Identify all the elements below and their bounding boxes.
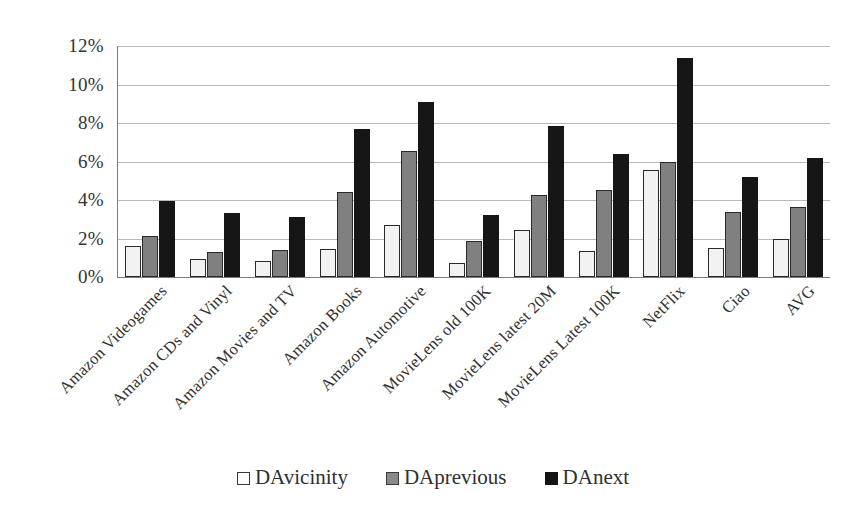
legend-label: DAnext xyxy=(563,466,630,488)
legend-item[interactable]: DAnext xyxy=(545,466,630,488)
legend-label: DAvicinity xyxy=(255,466,348,488)
y-axis-tick-label: 8% xyxy=(46,113,104,132)
bar-vicinity xyxy=(255,261,271,277)
y-axis-tick-label: 0% xyxy=(46,267,104,286)
legend-swatch-vicinity xyxy=(237,472,250,485)
bar-next xyxy=(289,217,305,277)
y-axis-tick-label: 12% xyxy=(46,36,104,55)
bar-previous xyxy=(660,162,676,277)
bar-groups xyxy=(118,46,830,277)
bar-next xyxy=(159,201,175,277)
bar-next xyxy=(224,213,240,277)
bar-group xyxy=(118,46,183,277)
bar-next xyxy=(807,158,823,277)
bar-vicinity xyxy=(514,230,530,277)
x-axis-category-label: MovieLens latest 20M xyxy=(438,282,558,402)
bar-previous xyxy=(531,195,547,277)
y-axis-tick-label: 10% xyxy=(46,75,104,94)
x-axis-category-label: Amazon CDs and Vinyl xyxy=(109,282,235,408)
legend-swatch-previous xyxy=(386,472,399,485)
bar-previous xyxy=(725,212,741,277)
x-axis-category-label: MovieLens Latest 100K xyxy=(495,282,623,410)
x-axis-category-label: Amazon Videogames xyxy=(56,282,170,396)
bar-group xyxy=(247,46,312,277)
legend-item[interactable]: DAprevious xyxy=(386,466,507,488)
y-axis-tick-label: 4% xyxy=(46,190,104,209)
legend-swatch-next xyxy=(545,472,558,485)
bar-next xyxy=(354,129,370,277)
bar-vicinity xyxy=(125,246,141,277)
bar-vicinity xyxy=(190,259,206,277)
bar-vicinity xyxy=(643,170,659,277)
bar-next xyxy=(677,58,693,277)
bar-group xyxy=(183,46,248,277)
bar-next xyxy=(613,154,629,277)
bar-next xyxy=(548,126,564,277)
bar-previous xyxy=(337,192,353,277)
bar-previous xyxy=(272,250,288,277)
bar-group xyxy=(636,46,701,277)
bar-vicinity xyxy=(579,251,595,277)
y-axis-tick-labels: 12%10%8%6%4%2%0% xyxy=(40,46,104,277)
bar-chart: 12%10%8%6%4%2%0% Amazon VideogamesAmazon… xyxy=(0,0,866,530)
x-axis-category-label: NetFlix xyxy=(640,282,689,331)
bar-next xyxy=(483,215,499,277)
bar-vicinity xyxy=(320,249,336,277)
chart-legend: DAvicinityDApreviousDAnext xyxy=(0,466,866,488)
bar-vicinity xyxy=(708,248,724,277)
bar-group xyxy=(701,46,766,277)
y-axis-tick-label: 2% xyxy=(46,229,104,248)
bar-group xyxy=(765,46,830,277)
x-axis-category-labels: Amazon VideogamesAmazon CDs and VinylAma… xyxy=(118,278,830,428)
x-axis-category-label: Amazon Movies and TV xyxy=(170,282,300,412)
y-axis-tick-label: 6% xyxy=(46,152,104,171)
bar-group xyxy=(312,46,377,277)
bar-group xyxy=(377,46,442,277)
bar-next xyxy=(418,102,434,277)
bar-previous xyxy=(466,241,482,277)
bar-previous xyxy=(142,236,158,277)
bar-group xyxy=(571,46,636,277)
bar-group xyxy=(442,46,507,277)
bar-group xyxy=(506,46,571,277)
bar-previous xyxy=(401,151,417,277)
bar-previous xyxy=(790,207,806,277)
bar-vicinity xyxy=(773,239,789,278)
bar-previous xyxy=(596,190,612,277)
legend-label: DAprevious xyxy=(404,466,507,488)
x-axis-category-label: Ciao xyxy=(718,282,753,317)
x-axis-category-label: AVG xyxy=(781,282,817,318)
bar-next xyxy=(742,177,758,277)
bar-vicinity xyxy=(449,263,465,277)
legend-item[interactable]: DAvicinity xyxy=(237,466,348,488)
bar-vicinity xyxy=(384,225,400,277)
bar-previous xyxy=(207,252,223,277)
